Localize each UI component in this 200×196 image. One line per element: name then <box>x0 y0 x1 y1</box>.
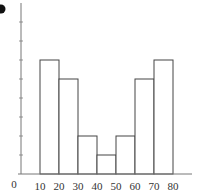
x-tick-label: 70 <box>149 180 161 192</box>
x-tick-label: 50 <box>111 180 123 192</box>
histogram-bar <box>78 136 97 174</box>
panel-label-glyph <box>0 5 6 14</box>
x-axis-tick-labels: 01020304050607080 <box>11 178 179 192</box>
histogram-bar <box>40 60 59 174</box>
x-tick-label: 30 <box>73 180 85 192</box>
x-tick-label: 40 <box>92 180 104 192</box>
x-tick-label: 20 <box>54 180 66 192</box>
histogram-bar <box>59 79 78 174</box>
histogram-bar <box>97 155 116 174</box>
histogram-bar <box>135 79 154 174</box>
histogram-bars <box>40 60 173 174</box>
x-tick-label: 80 <box>168 180 180 192</box>
histogram-chart: b 01020304050607080 <box>0 0 200 196</box>
x-tick-label: 60 <box>130 180 142 192</box>
x-tick-label: 10 <box>35 180 47 192</box>
histogram-bar <box>116 136 135 174</box>
x-tick-label: 0 <box>11 178 17 190</box>
histogram-bar <box>154 60 173 174</box>
